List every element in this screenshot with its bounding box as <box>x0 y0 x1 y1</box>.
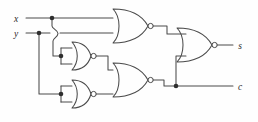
circuit-canvas: x y s c <box>0 0 258 122</box>
wire-carry-tap-to-sum <box>176 56 186 86</box>
bubble-nor-carry <box>148 77 153 82</box>
junction-carry-tap <box>174 84 179 89</box>
bubble-bot-inverter <box>91 91 96 96</box>
output-label-s: s <box>238 41 242 51</box>
input-label-y: y <box>13 29 19 39</box>
wire-carry-output <box>153 80 233 86</box>
gate-nor-bot-inverter <box>72 80 91 108</box>
wire-y-branch-down <box>39 33 61 94</box>
gate-nor-mid-inverter <box>72 42 91 70</box>
junction-bot-inverter-tie <box>59 92 64 97</box>
junction-mid-inverter-tie <box>59 54 64 59</box>
bubble-nor-sum <box>212 42 217 47</box>
logic-circuit-diagram: x y s c <box>0 0 258 122</box>
gate-nor-top <box>113 9 148 43</box>
input-label-x: x <box>13 14 19 24</box>
wire-x-branch-hop <box>52 18 61 56</box>
output-label-c: c <box>238 82 243 92</box>
wire-top-nor-to-sum <box>153 26 186 34</box>
junction-y-tap <box>37 31 42 36</box>
bubble-nor-top <box>148 23 153 28</box>
junction-x-tap <box>50 16 55 21</box>
wire-mid-inv-to-carry <box>96 56 113 70</box>
gate-nor-sum <box>177 28 212 62</box>
gate-nor-carry <box>113 63 148 97</box>
bubble-mid-inverter <box>91 53 96 58</box>
